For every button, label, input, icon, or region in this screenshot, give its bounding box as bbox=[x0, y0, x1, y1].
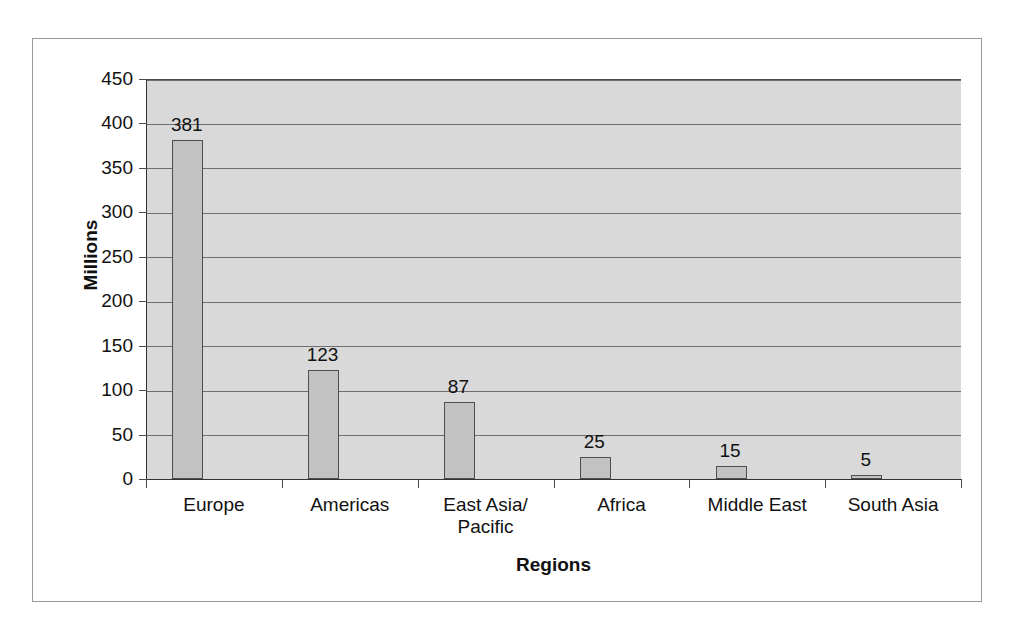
x-axis-tick bbox=[689, 479, 690, 488]
y-axis-tick-label: 50 bbox=[112, 425, 133, 444]
x-axis-tick bbox=[146, 479, 147, 488]
bar bbox=[172, 140, 203, 479]
x-axis-category-label: South Asia bbox=[825, 494, 961, 516]
gridline bbox=[147, 80, 961, 81]
x-axis-title: Regions bbox=[146, 554, 961, 576]
x-axis-category-label: Middle East bbox=[689, 494, 825, 516]
gridline bbox=[147, 124, 961, 125]
bar-value-label: 87 bbox=[421, 377, 496, 396]
x-axis-category-label: Americas bbox=[282, 494, 418, 516]
x-axis-category-label: Europe bbox=[146, 494, 282, 516]
y-axis-tick-label: 250 bbox=[101, 247, 133, 266]
y-axis-tick-label: 0 bbox=[122, 469, 133, 488]
bar-value-label: 381 bbox=[149, 115, 224, 134]
x-axis-tick bbox=[554, 479, 555, 488]
y-axis-tick bbox=[139, 212, 147, 213]
bar-value-label: 15 bbox=[693, 441, 768, 460]
x-axis-tick bbox=[825, 479, 826, 488]
bar-value-label: 5 bbox=[828, 450, 903, 469]
x-axis-tick bbox=[418, 479, 419, 488]
y-axis-tick bbox=[139, 346, 147, 347]
figure-frame: Millions 050100150200250300350400450 Reg… bbox=[32, 38, 982, 602]
gridline bbox=[147, 391, 961, 392]
bar bbox=[444, 402, 475, 479]
gridline bbox=[147, 257, 961, 258]
x-axis-category-label: East Asia/ Pacific bbox=[418, 494, 554, 538]
plot-area bbox=[146, 79, 961, 479]
x-axis-category-label: Africa bbox=[554, 494, 690, 516]
gridline bbox=[147, 213, 961, 214]
y-axis-line bbox=[146, 79, 147, 480]
x-axis-tick bbox=[282, 479, 283, 488]
bar bbox=[308, 370, 339, 479]
y-axis-tick bbox=[139, 390, 147, 391]
y-axis-tick bbox=[139, 257, 147, 258]
y-axis-tick-label: 150 bbox=[101, 336, 133, 355]
bar bbox=[580, 457, 611, 479]
bar-value-label: 123 bbox=[285, 345, 360, 364]
y-axis-tick-label: 450 bbox=[101, 69, 133, 88]
y-axis-tick-label: 350 bbox=[101, 158, 133, 177]
gridline bbox=[147, 302, 961, 303]
y-axis-tick-labels: 050100150200250300350400450 bbox=[81, 39, 133, 519]
y-axis-tick-label: 400 bbox=[101, 113, 133, 132]
bar bbox=[716, 466, 747, 479]
gridline bbox=[147, 435, 961, 436]
y-axis-tick bbox=[139, 79, 147, 80]
y-axis-tick bbox=[139, 168, 147, 169]
gridline bbox=[147, 346, 961, 347]
y-axis-tick bbox=[139, 123, 147, 124]
gridline bbox=[147, 168, 961, 169]
y-axis-tick-label: 200 bbox=[101, 291, 133, 310]
y-axis-tick-label: 100 bbox=[101, 380, 133, 399]
x-axis-tick bbox=[961, 479, 962, 488]
y-axis-tick bbox=[139, 301, 147, 302]
bar-value-label: 25 bbox=[557, 432, 632, 451]
y-axis-tick-label: 300 bbox=[101, 202, 133, 221]
y-axis-tick bbox=[139, 435, 147, 436]
